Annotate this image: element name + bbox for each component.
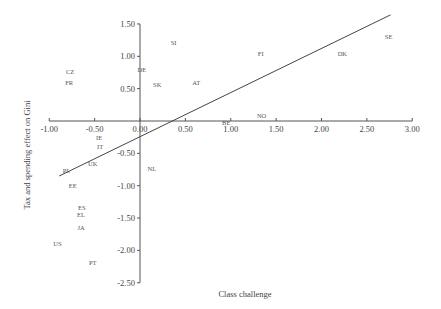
x-tick-label: 0.00 — [133, 124, 148, 134]
y-tick-label: -1.50 — [117, 213, 135, 223]
scatter-chart: -1.00-0.500.000.501.001.502.002.503.001.… — [0, 0, 441, 309]
country-label-nl: NL — [147, 165, 156, 172]
country-label-us: US — [53, 240, 62, 247]
data-point-labels: SICZFRDESKATFIDKSENOBEIEITUKNLPLEEESELJA… — [53, 33, 392, 265]
country-label-cz: CZ — [66, 68, 74, 75]
country-label-no: NO — [257, 112, 267, 119]
country-label-si: SI — [171, 39, 177, 46]
country-label-pl: PL — [63, 167, 71, 174]
country-label-be: BE — [222, 119, 230, 126]
y-tick-label: -1.00 — [117, 181, 135, 191]
country-label-dk: DK — [338, 50, 348, 57]
x-tick-label: 0.50 — [178, 124, 193, 134]
y-tick-label: 1.00 — [120, 51, 135, 61]
x-tick-label: 2.50 — [359, 124, 374, 134]
country-label-ja: JA — [77, 224, 85, 231]
x-tick-label: 1.50 — [269, 124, 284, 134]
x-tick-label: -1.00 — [40, 124, 58, 134]
x-axis-title: Class challenge — [218, 289, 271, 299]
x-tick-label: 2.00 — [314, 124, 329, 134]
y-tick-label: -2.00 — [117, 245, 135, 255]
axes: -1.00-0.500.000.501.001.502.002.503.001.… — [40, 19, 419, 288]
y-tick-label: 0.50 — [120, 84, 135, 94]
regression-line — [59, 15, 390, 176]
x-tick-label: 3.00 — [405, 124, 420, 134]
country-label-el: EL — [77, 211, 85, 218]
y-tick-label: -2.50 — [117, 278, 135, 288]
country-label-es: ES — [78, 204, 86, 211]
y-tick-label: -0.50 — [117, 148, 135, 158]
country-label-it: IT — [97, 143, 103, 150]
y-tick-label: 1.50 — [120, 19, 135, 29]
y-axis-title: Tax and spending effect on Gini — [22, 100, 32, 210]
country-label-uk: UK — [88, 160, 98, 167]
country-label-ie: IE — [96, 134, 102, 141]
x-tick-label: -0.50 — [86, 124, 104, 134]
country-label-fi: FI — [258, 50, 264, 57]
country-label-ee: EE — [69, 182, 77, 189]
country-label-sk: SK — [153, 81, 162, 88]
trend-line — [59, 15, 390, 176]
country-label-fr: FR — [65, 79, 74, 86]
country-label-at: AT — [192, 79, 200, 86]
country-label-pt: PT — [89, 259, 97, 266]
country-label-se: SE — [385, 33, 393, 40]
country-label-de: DE — [137, 66, 146, 73]
